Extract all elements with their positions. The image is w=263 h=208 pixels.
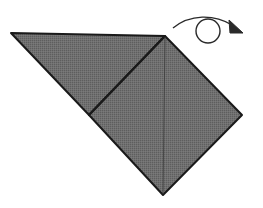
paper-model: [11, 33, 242, 195]
origami-diagram: [0, 0, 263, 208]
turn-over-arrow-icon: [173, 17, 243, 43]
